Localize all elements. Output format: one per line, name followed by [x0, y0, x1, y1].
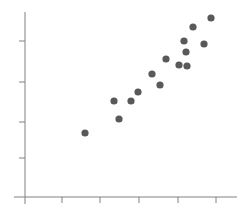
data-point-marker	[81, 129, 88, 136]
data-point-marker	[134, 88, 141, 95]
data-point-marker	[175, 61, 182, 68]
data-point-marker	[162, 55, 169, 62]
data-point-marker	[127, 97, 134, 104]
data-points-group	[81, 14, 214, 136]
data-point-marker	[110, 97, 117, 104]
data-point-marker	[200, 40, 207, 47]
data-point-marker	[115, 115, 122, 122]
y-axis-ticks	[19, 41, 25, 158]
data-point-marker	[182, 48, 189, 55]
data-point-marker	[156, 81, 163, 88]
data-point-marker	[189, 23, 196, 30]
x-axis-ticks	[62, 197, 216, 203]
data-point-marker	[207, 14, 214, 21]
data-point-marker	[180, 37, 187, 44]
data-point-marker	[183, 62, 190, 69]
data-point-marker	[148, 70, 155, 77]
plot-canvas	[0, 0, 244, 210]
scatter-plot-figure	[0, 0, 244, 210]
